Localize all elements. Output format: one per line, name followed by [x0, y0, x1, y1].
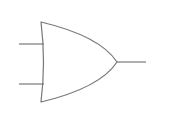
- or-gate-svg: [0, 0, 178, 122]
- or-gate-body: [41, 22, 117, 102]
- or-gate-diagram: [0, 0, 178, 122]
